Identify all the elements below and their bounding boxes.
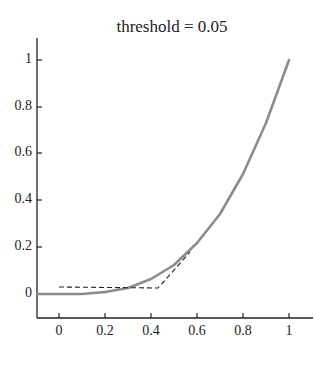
curve-line [37,60,289,294]
y-tick-label: 0.2 [2,238,32,254]
y-tick-label: 0.4 [2,191,32,207]
x-tick-label: 1 [274,323,304,339]
x-tick-label: 0.4 [136,323,166,339]
y-tick-label: 1 [2,51,32,67]
y-ticks [37,60,42,294]
x-tick-label: 0.6 [182,323,212,339]
y-tick-label: 0.6 [2,144,32,160]
threshold-dashed-line [59,252,190,288]
y-tick-label: 0.8 [2,98,32,114]
x-ticks [59,313,289,318]
x-tick-label: 0.8 [228,323,258,339]
x-tick-label: 0 [44,323,74,339]
x-tick-label: 0.2 [90,323,120,339]
y-tick-label: 0 [2,285,32,301]
